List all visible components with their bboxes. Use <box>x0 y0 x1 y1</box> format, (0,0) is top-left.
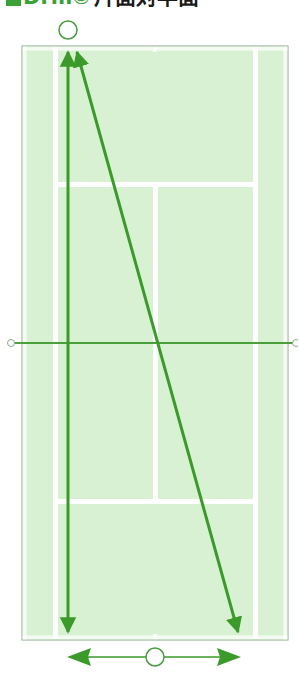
left-net-post-icon <box>8 340 15 347</box>
top-service-line <box>58 182 253 187</box>
bottom-player-movement <box>67 648 241 666</box>
right-movement-arrowhead-icon <box>217 648 241 666</box>
bottom-service-line <box>58 499 253 504</box>
right-net-post-icon <box>293 340 299 347</box>
top-center-mark <box>153 47 157 52</box>
left-movement-arrowhead-icon <box>67 648 91 666</box>
bottom-player-icon <box>146 648 164 666</box>
top-player-icon <box>59 21 77 39</box>
bottom-center-mark <box>153 634 157 639</box>
tennis-court-diagram <box>0 0 298 673</box>
